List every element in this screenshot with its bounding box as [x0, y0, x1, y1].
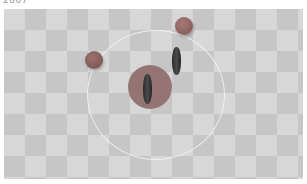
simulation-viewport[interactable]	[4, 9, 303, 179]
agent-right	[172, 47, 181, 75]
ball-left	[85, 51, 103, 69]
agent-center	[143, 74, 152, 104]
ball-top	[175, 17, 193, 35]
step-counter: 2867	[3, 0, 28, 5]
